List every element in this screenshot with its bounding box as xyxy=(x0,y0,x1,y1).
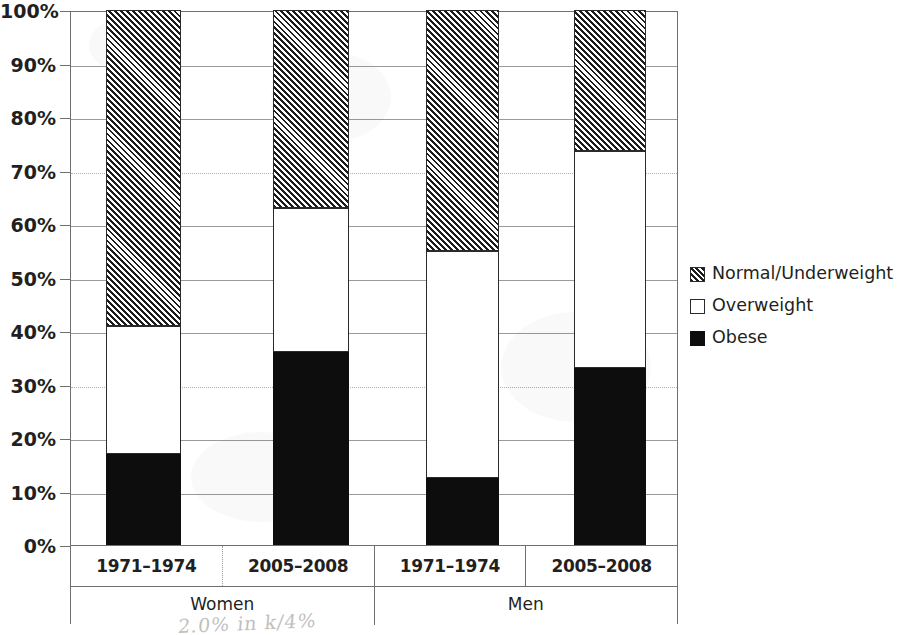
bar-segment-obese[interactable] xyxy=(273,352,349,545)
bar-men-2005-2008[interactable] xyxy=(574,12,646,545)
legend-item-normal-underweight: Normal/Underweight xyxy=(690,258,902,290)
y-tick-label: 60% xyxy=(0,214,56,236)
stacked-bar-chart: 100% 90% 80% 70% 60% 50% 40% 30% 20% 10%… xyxy=(0,0,905,635)
y-tick-label: 20% xyxy=(0,428,56,450)
y-tick-label: 70% xyxy=(0,161,56,183)
bar-segment-overweight[interactable] xyxy=(574,151,646,368)
category-label-row: 1971–1974 2005–2008 1971–1974 2005–2008 xyxy=(71,546,677,586)
y-tick-mark xyxy=(60,493,70,494)
bar-segment-obese[interactable] xyxy=(426,478,499,545)
y-tick-mark xyxy=(60,172,70,173)
bar-segment-normal-underweight[interactable] xyxy=(426,10,499,251)
y-tick-label: 80% xyxy=(0,107,56,129)
bar-segment-normal-underweight[interactable] xyxy=(574,10,646,151)
category-label-women-1971-1974: 1971–1974 xyxy=(71,546,223,586)
y-tick-mark xyxy=(60,546,70,547)
bar-segment-normal-underweight[interactable] xyxy=(106,10,181,326)
y-tick-mark xyxy=(60,279,70,280)
y-tick-mark xyxy=(60,225,70,226)
legend: Normal/Underweight Overweight Obese xyxy=(690,258,902,354)
legend-label: Overweight xyxy=(712,297,813,315)
y-tick-mark xyxy=(60,11,70,12)
bar-men-1971-1974[interactable] xyxy=(426,12,499,545)
y-tick-label: 40% xyxy=(0,321,56,343)
group-label-women: Women xyxy=(71,587,375,625)
bar-women-2005-2008[interactable] xyxy=(273,12,349,545)
y-tick-label: 50% xyxy=(0,268,56,290)
bar-segment-overweight[interactable] xyxy=(106,326,181,454)
group-label-row: Women Men xyxy=(71,586,677,625)
white-swatch-icon xyxy=(690,299,705,314)
bar-segment-obese[interactable] xyxy=(106,454,181,545)
y-tick-mark xyxy=(60,65,70,66)
bar-women-1971-1974[interactable] xyxy=(106,12,181,545)
bar-segment-overweight[interactable] xyxy=(426,251,499,478)
y-tick-label: 90% xyxy=(0,54,56,76)
legend-item-overweight: Overweight xyxy=(690,290,902,322)
y-tick-mark xyxy=(60,439,70,440)
category-axis: 1971–1974 2005–2008 1971–1974 2005–2008 … xyxy=(70,546,678,624)
legend-item-obese: Obese xyxy=(690,322,902,354)
bar-segment-obese[interactable] xyxy=(574,368,646,545)
y-tick-label: 100% xyxy=(0,0,56,22)
y-tick-mark xyxy=(60,118,70,119)
hatched-swatch-icon xyxy=(690,267,705,282)
y-tick-mark xyxy=(60,386,70,387)
category-label-men-2005-2008: 2005–2008 xyxy=(526,546,677,586)
bar-segment-normal-underweight[interactable] xyxy=(273,10,349,208)
black-swatch-icon xyxy=(690,331,705,346)
category-label-men-1971-1974: 1971–1974 xyxy=(375,546,527,586)
y-tick-label: 10% xyxy=(0,482,56,504)
legend-label: Normal/Underweight xyxy=(712,265,893,283)
bar-segment-overweight[interactable] xyxy=(273,208,349,352)
y-tick-mark xyxy=(60,332,70,333)
category-label-women-2005-2008: 2005–2008 xyxy=(223,546,375,586)
y-tick-label: 30% xyxy=(0,375,56,397)
y-tick-label: 0% xyxy=(0,535,56,557)
plot-area xyxy=(70,11,678,546)
legend-label: Obese xyxy=(712,329,768,347)
group-label-men: Men xyxy=(375,587,678,625)
